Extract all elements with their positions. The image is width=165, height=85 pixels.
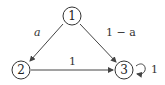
node-1: 1	[63, 7, 81, 25]
node-2: 2	[12, 61, 30, 79]
edge-label-1-2: a	[34, 26, 41, 39]
edge-3-self-loop	[136, 64, 145, 74]
node-3-label: 3	[120, 63, 128, 77]
edge-label-1-3: 1 − a	[106, 26, 136, 39]
node-2-label: 2	[17, 63, 25, 77]
node-3: 3	[115, 61, 133, 79]
markov-chain-diagram: a 1 − a 1 1 1 2 3	[0, 0, 165, 85]
edge-label-3-self: 1	[151, 63, 158, 76]
node-1-label: 1	[68, 9, 76, 23]
edge-label-2-3: 1	[69, 55, 76, 68]
